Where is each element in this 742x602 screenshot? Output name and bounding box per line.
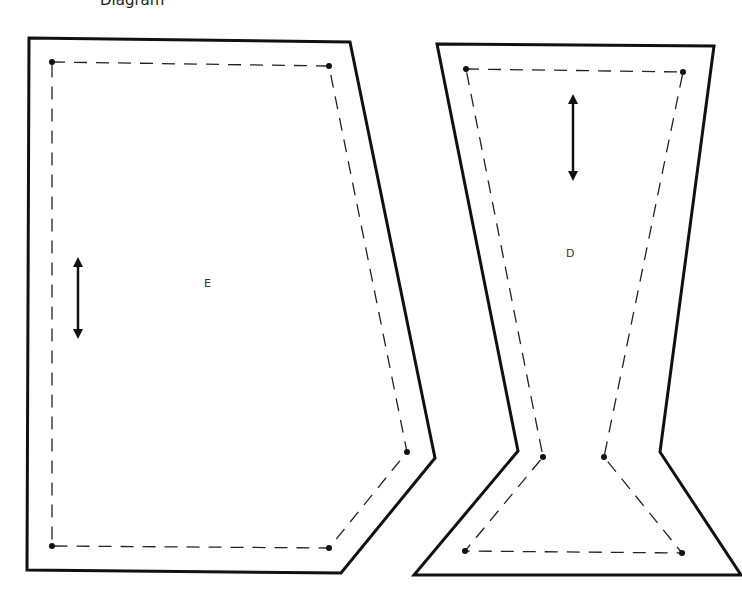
corner-dot — [49, 59, 55, 65]
piece-d-label: D — [566, 247, 574, 260]
pattern-diagram: E D — [0, 0, 742, 602]
pattern-piece-d: D — [414, 44, 741, 575]
corner-dot — [404, 449, 410, 455]
piece-e-label: E — [204, 277, 211, 290]
corner-dot — [679, 550, 685, 556]
pattern-piece-e: E — [27, 38, 435, 573]
corner-dot — [326, 545, 332, 551]
corner-dot — [49, 543, 55, 549]
piece-e-corner-dots — [49, 59, 410, 551]
corner-dot — [680, 69, 686, 75]
corner-dot — [601, 454, 607, 460]
corner-dot — [462, 548, 468, 554]
piece-e-seam-line — [52, 62, 407, 548]
piece-d-outline — [414, 44, 741, 575]
corner-dot — [326, 63, 332, 69]
corner-dot — [540, 454, 546, 460]
corner-dot — [463, 66, 469, 72]
piece-e-outline — [27, 38, 435, 573]
